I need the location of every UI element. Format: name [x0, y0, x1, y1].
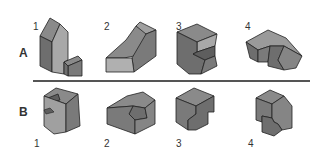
- figure-number-b2: 2: [104, 138, 110, 149]
- figure-a2: [104, 20, 164, 75]
- row-label-a: A: [19, 46, 28, 60]
- figure-a3: [175, 22, 235, 77]
- figure-number-b4: 4: [248, 138, 254, 149]
- figure-b2: [105, 90, 157, 138]
- row-label-b: B: [19, 105, 28, 119]
- figure-number-b3: 3: [176, 138, 182, 149]
- figure-b1: [40, 86, 85, 138]
- figure-number-b1: 1: [34, 138, 40, 149]
- figure-b3: [174, 86, 220, 138]
- figure-a4: [244, 26, 309, 74]
- row-divider: [33, 80, 310, 82]
- figure-a1: [38, 14, 93, 76]
- figure-b4: [254, 88, 298, 140]
